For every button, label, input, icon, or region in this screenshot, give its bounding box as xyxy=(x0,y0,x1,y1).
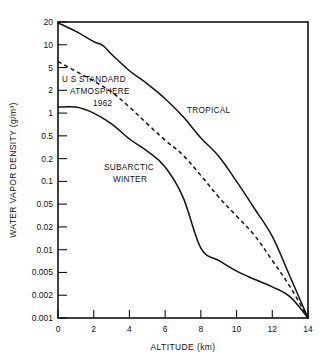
y-tick-label-0.5: 0.5 xyxy=(41,131,53,141)
y-tick-label-2: 2 xyxy=(48,85,53,95)
y-tick-label-0.002: 0.002 xyxy=(32,290,54,300)
y-tick-label-10: 10 xyxy=(44,40,54,50)
annotation-winter: WINTER xyxy=(113,175,147,184)
annotation-1962: 1962 xyxy=(93,99,113,108)
data-curves xyxy=(58,23,308,318)
y-axis-tick-labels: 20105210.50.20.10.050.020.010.0050.0020.… xyxy=(32,17,54,323)
x-tick-label-6: 6 xyxy=(163,324,168,334)
annotation-subarctic: SUBARCTIC xyxy=(104,163,154,172)
curve-subarctic-winter xyxy=(58,107,308,318)
x-tick-label-4: 4 xyxy=(127,324,132,334)
annotation-tropical: TROPICAL xyxy=(187,106,230,115)
x-axis-ticks xyxy=(58,310,308,318)
y-tick-label-0.01: 0.01 xyxy=(36,245,53,255)
y-tick-label-0.02: 0.02 xyxy=(36,222,53,232)
y-tick-label-5: 5 xyxy=(48,63,53,73)
y-tick-label-0.2: 0.2 xyxy=(41,154,53,164)
y-tick-label-0.001: 0.001 xyxy=(32,313,54,323)
water-vapor-density-chart: 20105210.50.20.10.050.020.010.0050.0020.… xyxy=(0,0,327,359)
x-tick-label-2: 2 xyxy=(91,324,96,334)
plot-frame xyxy=(58,22,308,318)
x-tick-label-14: 14 xyxy=(303,324,313,334)
x-tick-label-0: 0 xyxy=(56,324,61,334)
y-tick-label-0.05: 0.05 xyxy=(36,199,53,209)
x-tick-label-8: 8 xyxy=(198,324,203,334)
annotation-u-s-standard: U S STANDARD xyxy=(62,75,126,84)
curve-annotations: U S STANDARDATMOSPHERE1962TROPICALSUBARC… xyxy=(62,75,230,184)
y-tick-label-1: 1 xyxy=(48,108,53,118)
y-axis-title: WATER VAPOR DENSITY (g/m³) xyxy=(8,102,18,238)
water-vapor-density-figure: 20105210.50.20.10.050.020.010.0050.0020.… xyxy=(0,0,327,359)
y-tick-label-20: 20 xyxy=(44,17,54,27)
x-tick-label-12: 12 xyxy=(268,324,278,334)
curve-tropical xyxy=(58,23,308,318)
y-tick-label-0.005: 0.005 xyxy=(32,267,54,277)
y-tick-label-0.1: 0.1 xyxy=(41,176,53,186)
x-tick-label-10: 10 xyxy=(232,324,242,334)
x-axis-tick-labels: 02468101214 xyxy=(56,324,313,334)
annotation-atmosphere: ATMOSPHERE xyxy=(70,87,130,96)
x-axis-title: ALTITUDE (km) xyxy=(150,342,215,352)
